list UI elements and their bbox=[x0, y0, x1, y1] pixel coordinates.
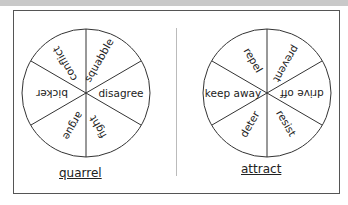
segment-word: fight bbox=[86, 114, 108, 141]
segment-word: prevent bbox=[271, 43, 302, 84]
segment-word: resist bbox=[274, 108, 299, 139]
wheel-label-attract: attract bbox=[241, 162, 281, 176]
segment-word: bicker bbox=[35, 88, 68, 100]
wheels-svg: squabble disagree fight argue bicker con… bbox=[0, 0, 348, 205]
segment-word: disagree bbox=[98, 87, 143, 99]
segment-word: deter bbox=[237, 108, 262, 139]
segment-word: keep away bbox=[205, 87, 261, 99]
segment-word: repel bbox=[242, 45, 266, 74]
segment-word: conflict bbox=[50, 44, 80, 83]
segment-word: argue bbox=[61, 110, 87, 142]
segment-word: drive off bbox=[279, 88, 323, 100]
segment-word: squabble bbox=[81, 36, 115, 84]
wheel-quarrel-words: squabble disagree fight argue bicker con… bbox=[35, 36, 143, 142]
wheel-label-quarrel: quarrel bbox=[59, 166, 102, 180]
